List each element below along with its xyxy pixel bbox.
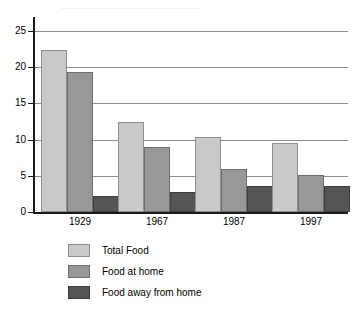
- legend-item-0: Total Food: [68, 240, 318, 261]
- x-axis-label-1997: 1997: [291, 216, 331, 227]
- chart-legend: Total FoodFood at homeFood away from hom…: [68, 240, 318, 303]
- legend-label-2: Food away from home: [102, 287, 202, 298]
- legend-swatch-2: [68, 286, 90, 299]
- bar-1987-series-0: [195, 137, 221, 212]
- x-axis-label-1967: 1967: [137, 216, 177, 227]
- bar-1967-series-1: [144, 147, 170, 212]
- legend-swatch-1: [68, 265, 90, 278]
- bar-1967-series-2: [170, 192, 196, 212]
- legend-swatch-0: [68, 244, 90, 257]
- bars-layer: [0, 0, 356, 232]
- bar-1929-series-0: [41, 50, 67, 212]
- legend-item-1: Food at home: [68, 261, 318, 282]
- x-axis-label-1987: 1987: [214, 216, 254, 227]
- bar-1997-series-0: [272, 143, 298, 212]
- plot-area: 0510152025 1929196719871997: [0, 0, 356, 232]
- bar-1929-series-2: [93, 196, 119, 212]
- bar-chart-figure: 0510152025 1929196719871997 Total FoodFo…: [0, 0, 356, 310]
- bar-1987-series-1: [221, 169, 247, 212]
- x-axis-label-1929: 1929: [60, 216, 100, 227]
- legend-item-2: Food away from home: [68, 282, 318, 303]
- bar-1997-series-2: [324, 186, 350, 212]
- bar-1929-series-1: [67, 72, 93, 212]
- bar-1997-series-1: [298, 175, 324, 212]
- bar-1987-series-2: [247, 186, 273, 212]
- bar-1967-series-0: [118, 122, 144, 213]
- legend-label-1: Food at home: [102, 266, 164, 277]
- legend-label-0: Total Food: [102, 245, 149, 256]
